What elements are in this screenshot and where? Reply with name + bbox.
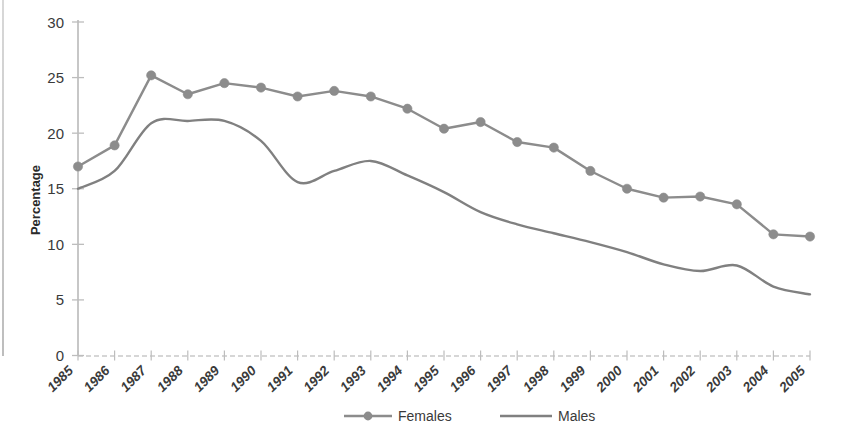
data-point-females-2005 [805, 232, 814, 241]
data-point-females-2000 [622, 184, 631, 193]
data-point-females-2003 [732, 200, 741, 209]
legend-label-males: Males [558, 408, 595, 424]
x-tick-label: 2003 [702, 363, 735, 396]
x-tick-label: 1992 [300, 363, 332, 395]
x-tick-label: 1987 [117, 362, 150, 395]
x-tick-label: 1996 [447, 363, 479, 395]
y-axis-tick-labels: 051015202530 [47, 14, 64, 365]
x-tick-label: 1988 [154, 363, 186, 395]
x-tick-label: 2005 [776, 363, 809, 396]
data-point-females-1997 [513, 137, 522, 146]
data-point-females-1990 [256, 83, 265, 92]
page-edge-artifact [2, 0, 4, 356]
data-point-females-1998 [549, 143, 558, 152]
x-tick-label: 1986 [81, 363, 113, 395]
y-tick-label: 0 [56, 347, 64, 364]
data-point-females-1991 [293, 92, 302, 101]
x-axis-tick-labels: 1985198619871988198919901991199219931994… [44, 362, 808, 396]
x-tick-label: 1994 [374, 363, 406, 395]
data-point-females-1996 [476, 117, 485, 126]
series-markers-females [73, 71, 814, 241]
x-tick-label: 1989 [191, 363, 223, 395]
y-tick-label: 15 [47, 180, 64, 197]
chart-legend: Females Males [344, 408, 595, 424]
y-tick-label: 20 [47, 125, 64, 142]
y-tick-label: 10 [47, 236, 64, 253]
data-point-females-1989 [220, 79, 229, 88]
legend-label-females: Females [398, 408, 452, 424]
data-point-females-2004 [769, 230, 778, 239]
data-point-females-1995 [439, 124, 448, 133]
x-tick-label: 1999 [557, 363, 589, 395]
data-point-females-2002 [696, 192, 705, 201]
y-tick-label: 5 [56, 291, 64, 308]
x-axis-ticks [78, 351, 810, 361]
data-point-females-1987 [147, 71, 156, 80]
x-tick-label: 2000 [593, 363, 626, 396]
data-point-females-1985 [73, 162, 82, 171]
y-tick-label: 30 [47, 14, 64, 31]
data-point-females-1994 [403, 104, 412, 113]
data-point-females-1988 [183, 90, 192, 99]
y-axis-title: Percentage [28, 165, 43, 235]
data-point-females-1993 [366, 92, 375, 101]
y-tick-label: 25 [47, 69, 64, 86]
data-point-females-1986 [110, 141, 119, 150]
legend-marker-females [364, 412, 373, 421]
data-point-females-2001 [659, 193, 668, 202]
x-tick-label: 1990 [227, 363, 259, 395]
x-tick-label: 2002 [666, 363, 699, 396]
line-chart: Percentage 051015202530 1985198619871988… [0, 0, 858, 429]
x-tick-label: 1985 [44, 363, 76, 395]
x-tick-label: 1998 [520, 363, 552, 395]
x-tick-label: 2001 [629, 363, 662, 396]
data-point-females-1999 [586, 166, 595, 175]
series-line-females [78, 75, 810, 236]
x-tick-label: 2004 [739, 363, 772, 396]
series-line-males [78, 119, 810, 294]
x-tick-label: 1995 [410, 363, 442, 395]
x-tick-label: 1991 [264, 363, 296, 395]
data-point-females-1992 [330, 86, 339, 95]
chart-container: Percentage 051015202530 1985198619871988… [0, 0, 858, 429]
x-tick-label: 1997 [483, 362, 516, 395]
x-tick-label: 1993 [337, 363, 369, 395]
